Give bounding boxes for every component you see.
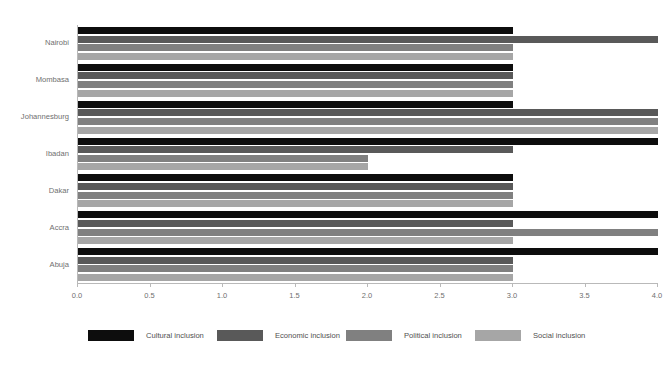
legend-item[interactable]: Political inclusion xyxy=(346,330,462,341)
legend-item[interactable]: Economic inclusion xyxy=(217,330,340,341)
legend-item[interactable]: Social inclusion xyxy=(475,330,585,341)
chart-legend: Cultural inclusionEconomic inclusionPoli… xyxy=(88,330,588,346)
legend-item[interactable]: Cultural inclusion xyxy=(88,330,204,341)
bar xyxy=(78,101,513,108)
y-axis-label-johannesburg: Johannesburg xyxy=(0,112,69,121)
x-tick xyxy=(657,283,658,287)
bar xyxy=(78,174,513,181)
legend-label: Social inclusion xyxy=(533,331,585,340)
bar xyxy=(78,192,513,199)
bar xyxy=(78,200,513,207)
x-tick xyxy=(512,283,513,287)
figure-title: FIGURE 1. CULTURAL, ECONOMIC, POLITICAL … xyxy=(26,0,626,3)
x-tick xyxy=(585,283,586,287)
bar xyxy=(78,36,658,43)
legend-swatch-icon xyxy=(475,330,521,341)
bar xyxy=(78,64,513,71)
x-tick xyxy=(150,283,151,287)
bar xyxy=(78,27,513,34)
y-axis-label-abuja: Abuja xyxy=(0,260,69,269)
x-tick xyxy=(77,283,78,287)
x-tick-label: 3.5 xyxy=(579,291,589,300)
bar xyxy=(78,229,658,236)
x-tick-label: 1.5 xyxy=(289,291,299,300)
x-tick-label: 3.0 xyxy=(507,291,517,300)
y-axis-label-dakar: Dakar xyxy=(0,186,69,195)
bar xyxy=(78,211,658,218)
legend-swatch-icon xyxy=(88,330,134,341)
y-axis-label-accra: Accra xyxy=(0,223,69,232)
bar xyxy=(78,127,658,134)
x-tick-label: 0.0 xyxy=(72,291,82,300)
bar xyxy=(78,257,513,264)
x-tick-label: 0.5 xyxy=(144,291,154,300)
x-tick xyxy=(440,283,441,287)
bar xyxy=(78,53,513,60)
x-tick xyxy=(295,283,296,287)
x-tick-label: 2.0 xyxy=(362,291,372,300)
bar xyxy=(78,248,658,255)
y-axis-label-mombasa: Mombasa xyxy=(0,75,69,84)
bar xyxy=(78,44,513,51)
x-tick xyxy=(367,283,368,287)
bar xyxy=(78,220,513,227)
bar xyxy=(78,265,513,272)
legend-swatch-icon xyxy=(346,330,392,341)
bar xyxy=(78,183,513,190)
y-axis-label-nairobi: Nairobi xyxy=(0,38,69,47)
y-axis-label-ibadan: Ibadan xyxy=(0,149,69,158)
bar xyxy=(78,109,658,116)
plot-area: 0.00.51.01.52.02.53.03.54.0 xyxy=(77,25,657,283)
bar xyxy=(78,274,513,281)
legend-label: Political inclusion xyxy=(404,331,462,340)
x-tick-label: 2.5 xyxy=(434,291,444,300)
bar xyxy=(78,81,513,88)
legend-label: Economic inclusion xyxy=(275,331,340,340)
x-tick xyxy=(222,283,223,287)
bar xyxy=(78,163,368,170)
bar xyxy=(78,72,513,79)
x-tick-label: 1.0 xyxy=(217,291,227,300)
bar xyxy=(78,155,368,162)
x-tick-label: 4.0 xyxy=(652,291,662,300)
bar xyxy=(78,138,658,145)
legend-swatch-icon xyxy=(217,330,263,341)
bar xyxy=(78,90,513,97)
chart-figure: FIGURE 1. CULTURAL, ECONOMIC, POLITICAL … xyxy=(0,0,664,366)
legend-label: Cultural inclusion xyxy=(146,331,204,340)
bar xyxy=(78,118,658,125)
bar xyxy=(78,237,513,244)
bar xyxy=(78,146,513,153)
